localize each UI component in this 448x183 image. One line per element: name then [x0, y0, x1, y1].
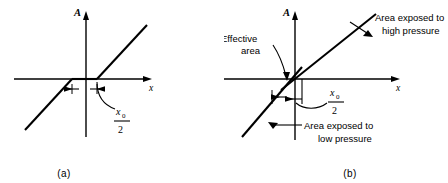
leader-line-high-pressure — [350, 22, 373, 37]
x-axis-label-b: x — [395, 83, 401, 93]
high-pressure-line2: high pressure — [382, 25, 440, 36]
high-pressure-annotation: Area exposed to high pressure — [375, 12, 444, 36]
panel-a: A x x 0 2 (a) — [0, 0, 224, 183]
low-pressure-line1: Area exposed to — [304, 120, 373, 131]
overlap-dimension-b — [271, 79, 302, 104]
leader-line-x0-b — [296, 103, 327, 108]
y-axis-a — [83, 11, 89, 137]
dimension-arrowhead-right — [285, 96, 294, 102]
caption-panel-a: (a) — [0, 168, 176, 179]
figure-container: A x x 0 2 (a) — [0, 0, 448, 183]
leader-line-x0-a — [97, 82, 115, 109]
caption-panel-b: (b) — [238, 168, 448, 179]
x0-numerator-symbol: x — [329, 87, 335, 98]
effective-area-line1: Effective — [224, 33, 257, 44]
x0-denominator: 2 — [332, 105, 337, 116]
x0-subscript: 0 — [336, 93, 340, 101]
x0-over-2-label-b: x 0 2 — [328, 87, 344, 116]
x-axis-label-a: x — [148, 83, 154, 93]
low-pressure-annotation: Area exposed to low pressure — [304, 120, 373, 144]
panel-a-plot: A x x 0 2 — [0, 0, 224, 183]
low-pressure-line2: low pressure — [318, 133, 372, 144]
high-pressure-line1: Area exposed to — [375, 12, 444, 23]
effective-area-line2: area — [241, 45, 261, 56]
x0-subscript: 0 — [122, 112, 126, 120]
leader-line-low-pressure — [268, 122, 302, 129]
x-axis-arrowhead — [391, 76, 400, 82]
leader-line-effective-area — [273, 45, 290, 81]
x0-denominator: 2 — [118, 124, 123, 135]
x0-over-2-label-a: x 0 2 — [114, 106, 130, 135]
panel-b-plot: A x Effective area Area exposed to high … — [224, 0, 448, 183]
x-axis-b — [224, 76, 400, 82]
y-axis-label-a: A — [73, 7, 81, 18]
x0-numerator-symbol: x — [115, 106, 121, 117]
panel-b: A x Effective area Area exposed to high … — [224, 0, 448, 183]
dimension-arrowhead-left — [64, 86, 73, 92]
y-axis-arrowhead — [83, 11, 89, 20]
y-axis-label-b: A — [282, 7, 290, 18]
y-axis-arrowhead — [292, 11, 298, 20]
effective-area-annotation: Effective area — [224, 33, 261, 56]
x-axis-arrowhead — [143, 76, 152, 82]
